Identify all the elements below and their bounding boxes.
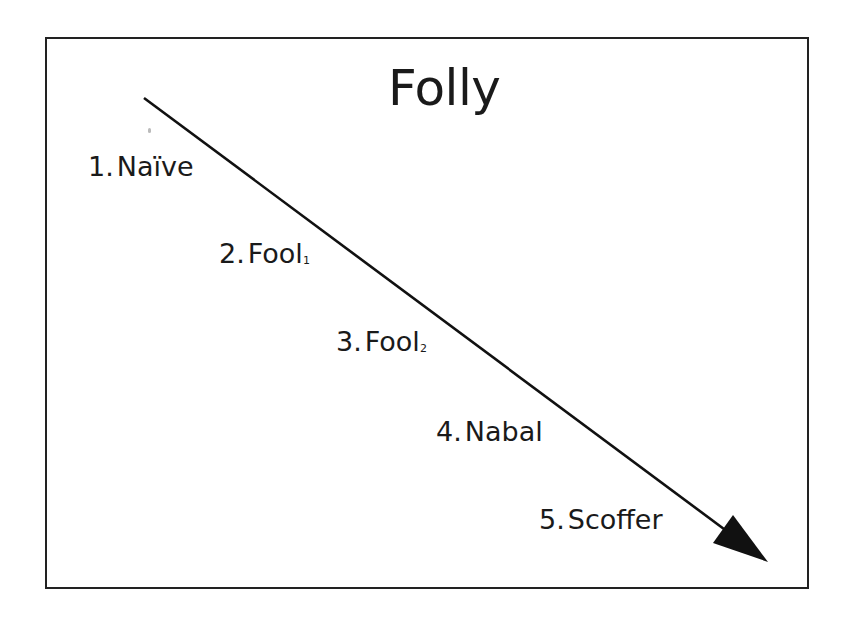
stage-number: 3. <box>336 326 362 357</box>
diagram-title: Folly <box>388 63 500 113</box>
stage-label: Nabal <box>465 416 543 447</box>
arrow-head-icon <box>713 515 768 562</box>
stage-number: 2. <box>219 238 245 269</box>
stage-number: 1. <box>88 151 114 182</box>
stage-1: 1.Naïve <box>88 153 194 180</box>
stage-subscript: 2 <box>420 342 427 355</box>
stage-number: 5. <box>539 504 565 535</box>
stage-2: 2.Fool1 <box>219 240 310 267</box>
stage-number: 4. <box>436 416 462 447</box>
stage-label: Scoffer <box>568 504 663 535</box>
stage-3: 3.Fool2 <box>336 328 427 355</box>
stage-label: Naïve <box>117 151 194 182</box>
stage-4: 4.Nabal <box>436 418 543 445</box>
stage-subscript: 1 <box>303 254 310 267</box>
arrow-shaft <box>144 98 728 532</box>
stage-5: 5.Scoffer <box>539 506 663 533</box>
stage-label: Fool <box>248 238 303 269</box>
speck <box>148 128 151 133</box>
stage-label: Fool <box>365 326 420 357</box>
